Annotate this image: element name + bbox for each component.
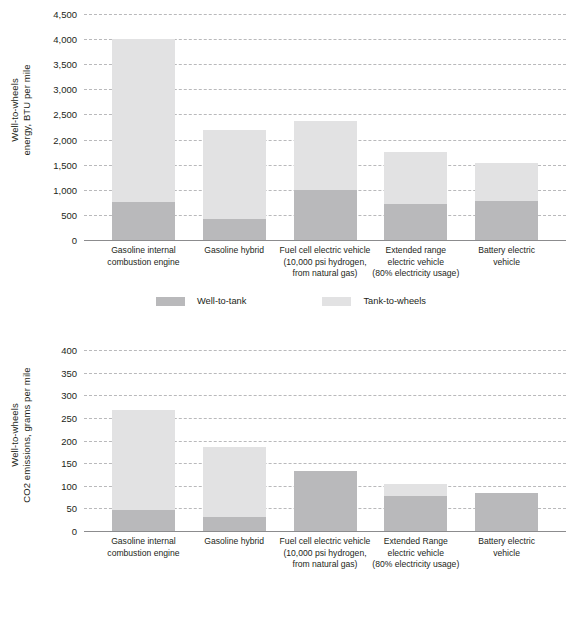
y-axis-tick-label: 2,500	[53, 111, 77, 121]
plot-area-emissions: 050100150200250300350400	[84, 350, 566, 531]
bar-energy-1	[203, 130, 266, 240]
legend-label-well-to-tank: Well-to-tank	[197, 296, 246, 306]
y-axis-title-energy: Well-to-wheels energy, BTU per mile	[9, 20, 32, 200]
legend-energy: Well-to-tank Tank-to-wheels	[0, 296, 582, 306]
bar-energy-4	[475, 163, 538, 240]
bar-emissions-3	[384, 484, 447, 531]
axis-baseline: 0	[84, 531, 566, 532]
axis-baseline: 0	[84, 240, 566, 241]
y-axis-tick-label: 250	[61, 414, 77, 424]
bar-group-energy	[84, 14, 566, 240]
legend-swatch-well-to-tank	[156, 297, 185, 306]
x-axis-category-label: Extended Range electric vehicle (80% ele…	[370, 536, 461, 571]
bar-segment-tank-to-wheels	[203, 447, 266, 516]
bar-segment-well-to-tank	[475, 493, 538, 531]
bar-emissions-0	[112, 410, 175, 531]
bar-segment-tank-to-wheels	[475, 163, 538, 201]
legend-swatch-tank-to-wheels	[322, 297, 351, 306]
bar-segment-well-to-tank	[112, 202, 175, 240]
chart-well-to-wheels-co2-emissions: Well-to-wheels CO2 emissions, grams per …	[0, 330, 582, 623]
y-axis-tick-label: 0	[72, 527, 77, 537]
y-axis-tick-label: 200	[61, 437, 77, 447]
x-axis-category-label: Extended range electric vehicle (80% ele…	[370, 245, 461, 280]
x-axis-category-label: Battery electric vehicle	[461, 536, 552, 559]
bar-energy-0	[112, 39, 175, 240]
bar-segment-tank-to-wheels	[203, 130, 266, 219]
bar-segment-tank-to-wheels	[384, 484, 447, 496]
y-axis-tick-label: 1,500	[53, 161, 77, 171]
bar-segment-well-to-tank	[294, 190, 357, 240]
x-axis-category-label: Fuel cell electric vehicle (10,000 psi h…	[280, 536, 371, 571]
y-axis-tick-label: 4,000	[53, 35, 77, 45]
bar-segment-well-to-tank	[294, 471, 357, 531]
y-axis-tick-label: 50	[66, 505, 77, 515]
bar-group-emissions	[84, 350, 566, 531]
y-axis-tick-label: 1,000	[53, 186, 77, 196]
x-axis-category-label: Battery electric vehicle	[461, 245, 552, 268]
y-axis-tick-label: 300	[61, 392, 77, 402]
x-axis-category-label: Fuel cell electric vehicle (10,000 psi h…	[280, 245, 371, 280]
y-axis-tick-label: 0	[72, 236, 77, 246]
x-axis-category-label: Gasoline internal combustion engine	[98, 536, 189, 559]
y-axis-tick-label: 400	[61, 346, 77, 356]
bar-segment-tank-to-wheels	[112, 39, 175, 202]
y-axis-tick-label: 3,500	[53, 60, 77, 70]
bar-segment-well-to-tank	[475, 201, 538, 240]
bar-emissions-1	[203, 447, 266, 531]
legend-item-well-to-tank: Well-to-tank	[156, 296, 246, 306]
y-axis-tick-label: 150	[61, 459, 77, 469]
bar-emissions-4	[475, 493, 538, 531]
x-axis-category-label: Gasoline hybrid	[189, 245, 280, 257]
bar-segment-tank-to-wheels	[384, 152, 447, 204]
bar-emissions-2	[294, 471, 357, 531]
bar-segment-well-to-tank	[203, 517, 266, 531]
y-axis-tick-label: 4,500	[53, 10, 77, 20]
bar-segment-tank-to-wheels	[294, 121, 357, 190]
chart-well-to-wheels-energy: Well-to-wheels energy, BTU per mile 0500…	[0, 0, 582, 330]
y-axis-tick-label: 350	[61, 369, 77, 379]
figure-two-stacked-bar-charts: Well-to-wheels energy, BTU per mile 0500…	[0, 0, 582, 623]
legend-label-tank-to-wheels: Tank-to-wheels	[363, 296, 426, 306]
y-axis-tick-label: 100	[61, 482, 77, 492]
bar-segment-well-to-tank	[384, 496, 447, 531]
bar-segment-well-to-tank	[203, 219, 266, 240]
x-axis-category-label: Gasoline hybrid	[189, 536, 280, 548]
bar-segment-tank-to-wheels	[112, 410, 175, 510]
x-axis-category-label: Gasoline internal combustion engine	[98, 245, 189, 268]
legend-item-tank-to-wheels: Tank-to-wheels	[322, 296, 426, 306]
y-axis-tick-label: 500	[61, 211, 77, 221]
y-axis-tick-label: 2,000	[53, 136, 77, 146]
bar-energy-3	[384, 152, 447, 240]
bar-energy-2	[294, 121, 357, 240]
plot-area-energy: 05001,0001,5002,0002,5003,0003,5004,0004…	[84, 14, 566, 240]
bar-segment-well-to-tank	[384, 204, 447, 240]
bar-segment-well-to-tank	[112, 510, 175, 531]
y-axis-tick-label: 3,000	[53, 86, 77, 96]
y-axis-title-emissions: Well-to-wheels CO2 emissions, grams per …	[9, 340, 32, 530]
